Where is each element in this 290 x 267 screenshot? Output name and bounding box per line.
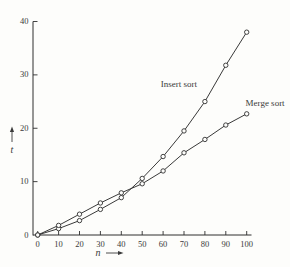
series-label-insert-sort: Insert sort <box>161 79 198 89</box>
data-point-marker <box>140 176 144 180</box>
up-arrow-icon <box>10 127 14 133</box>
data-point-marker <box>224 63 228 67</box>
data-point-marker <box>203 137 207 141</box>
x-axis-label: n <box>96 247 101 258</box>
x-tick-label: 50 <box>138 239 147 249</box>
x-tick-label: 100 <box>240 239 253 249</box>
x-tick-label: 70 <box>180 239 189 249</box>
y-tick-label: 10 <box>20 176 29 186</box>
y-tick-label: 30 <box>20 69 29 79</box>
sorting-time-comparison-figure: 0102030405060708090100010203040Insert so… <box>0 0 290 267</box>
y-axis-label: t <box>11 144 14 155</box>
data-point-marker <box>245 30 249 34</box>
series-label-merge-sort: Merge sort <box>246 98 286 108</box>
y-tick-label: 40 <box>20 16 29 26</box>
data-point-marker <box>140 182 144 186</box>
data-point-marker <box>119 191 123 195</box>
data-point-marker <box>98 201 102 205</box>
data-point-marker <box>77 212 81 216</box>
x-tick-label: 80 <box>201 239 210 249</box>
x-tick-label: 60 <box>159 239 168 249</box>
x-tick-label: 20 <box>75 239 84 249</box>
y-tick-label: 0 <box>24 230 28 240</box>
x-tick-label: 40 <box>117 239 126 249</box>
data-point-marker <box>182 129 186 133</box>
data-point-marker <box>182 151 186 155</box>
chart-canvas: 0102030405060708090100010203040Insert so… <box>0 0 290 267</box>
data-point-marker <box>161 154 165 158</box>
data-point-marker <box>56 223 60 227</box>
data-point-marker <box>77 218 81 222</box>
data-point-marker <box>224 123 228 127</box>
series-line-merge-sort <box>38 114 247 235</box>
x-tick-label: 90 <box>222 239 231 249</box>
x-tick-label: 0 <box>36 239 40 249</box>
data-point-marker <box>98 207 102 211</box>
data-point-marker <box>119 195 123 199</box>
y-tick-label: 20 <box>20 123 29 133</box>
data-point-marker <box>203 99 207 103</box>
data-point-marker <box>161 169 165 173</box>
series-line-insert-sort <box>38 32 247 235</box>
data-point-marker <box>36 233 40 237</box>
x-tick-label: 10 <box>54 239 63 249</box>
right-arrow-icon <box>118 251 124 255</box>
data-point-marker <box>245 112 249 116</box>
